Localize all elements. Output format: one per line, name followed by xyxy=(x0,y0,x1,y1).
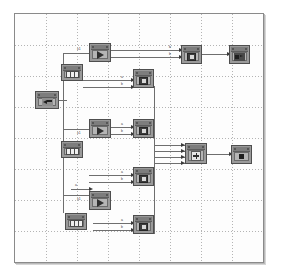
port-label-gain3-in: x1 xyxy=(77,197,81,201)
block-body xyxy=(234,152,249,161)
wire-gain2-b[interactable] xyxy=(111,134,131,135)
output-block-top[interactable] xyxy=(229,45,250,64)
wire-num3-a[interactable] xyxy=(93,223,131,224)
block-body xyxy=(184,52,199,61)
gain-block-2[interactable] xyxy=(89,119,111,138)
wire-num1-b[interactable] xyxy=(83,87,131,88)
port-label-s1-b: b xyxy=(121,82,123,86)
port-label-top-b: b xyxy=(169,52,171,56)
wire-num2-b[interactable] xyxy=(89,182,131,183)
block-handle-dot-icon xyxy=(92,46,94,48)
block-handle-dot-icon xyxy=(149,170,151,172)
grid-line-horizontal xyxy=(15,138,263,139)
wire-sum-to-out[interactable] xyxy=(207,154,231,155)
block-handle-dot-icon xyxy=(64,144,66,146)
gain-triangle-icon xyxy=(97,199,104,207)
scope-block-1[interactable] xyxy=(133,69,154,88)
port-label-s4-a: a xyxy=(121,218,123,222)
output-arrow-icon xyxy=(234,53,245,61)
block-body xyxy=(92,50,108,59)
scope-icon xyxy=(187,53,196,61)
port-label-s4-b: b xyxy=(121,225,123,229)
block-body xyxy=(136,126,151,135)
block-handle-dot-icon xyxy=(245,48,247,50)
screenshot-root: x1 x1 x1 a b b a b a b a b a b In1Num1Nu… xyxy=(0,0,288,277)
numeric-block-3[interactable] xyxy=(65,213,87,230)
block-body xyxy=(232,52,247,61)
block-handle-dot-icon xyxy=(232,48,234,50)
scope-block-4[interactable] xyxy=(133,215,154,234)
scope-block-2[interactable] xyxy=(133,119,154,138)
block-body xyxy=(38,98,56,106)
block-body xyxy=(64,148,80,155)
port-label-gain2-in: x1 xyxy=(77,131,81,135)
numeric-cells-icon xyxy=(70,220,83,227)
block-handle-dot-icon xyxy=(78,144,80,146)
wire-source-stub[interactable] xyxy=(59,100,67,101)
block-handle-dot-icon xyxy=(188,146,190,148)
wire-gain3-feed[interactable] xyxy=(71,189,89,190)
wire-src-to-gain1[interactable] xyxy=(63,53,89,54)
block-body xyxy=(188,150,204,161)
wire-gain2-a[interactable] xyxy=(111,127,131,128)
block-handle-dot-icon xyxy=(234,148,236,150)
scope-icon xyxy=(139,223,148,231)
numeric-block-2[interactable] xyxy=(61,141,83,158)
block-handle-dot-icon xyxy=(136,218,138,220)
sum-block[interactable] xyxy=(185,143,207,164)
block-body xyxy=(136,222,151,231)
gain-triangle-icon xyxy=(97,127,104,135)
block-handle-dot-icon xyxy=(202,146,204,148)
output-block-right[interactable] xyxy=(231,145,252,164)
block-handle-dot-icon xyxy=(92,194,94,196)
arrow-into-gain3-a xyxy=(89,187,93,191)
block-body xyxy=(136,174,151,183)
wire-src-to-gain3[interactable] xyxy=(63,195,89,196)
scope-icon xyxy=(139,175,148,183)
gain-block-1[interactable] xyxy=(89,43,111,62)
grid-line-horizontal xyxy=(15,45,263,46)
port-label-s3-b: b xyxy=(121,177,123,181)
scope-block-top[interactable] xyxy=(181,45,202,64)
port-label-gain3-in2: a xyxy=(75,183,77,187)
wire-num3-b[interactable] xyxy=(93,230,131,231)
block-handle-dot-icon xyxy=(54,94,56,96)
block-body xyxy=(136,76,151,85)
wire-src-to-gain2[interactable] xyxy=(63,129,89,130)
gain-triangle-icon xyxy=(97,51,104,59)
source-block-left[interactable] xyxy=(35,91,59,109)
gain-block-3[interactable] xyxy=(89,191,111,210)
scope-block-3[interactable] xyxy=(133,167,154,186)
port-label-s1-a: a xyxy=(121,75,123,79)
block-handle-dot-icon xyxy=(149,122,151,124)
wire-num1-a[interactable] xyxy=(83,80,131,81)
port-label-gain1-in: x1 xyxy=(77,47,81,51)
scope-icon xyxy=(139,127,148,135)
block-handle-dot-icon xyxy=(106,194,108,196)
block-handle-dot-icon xyxy=(149,72,151,74)
port-label-top-a: b xyxy=(169,45,171,49)
numeric-cells-icon xyxy=(66,148,79,155)
input-arrow-icon xyxy=(42,98,53,106)
block-handle-dot-icon xyxy=(184,48,186,50)
numeric-block-1[interactable] xyxy=(61,64,83,81)
wire-gain1-out-b[interactable] xyxy=(111,57,179,58)
numeric-cells-icon xyxy=(66,71,79,78)
wire-right-trunk[interactable] xyxy=(154,86,155,234)
block-handle-dot-icon xyxy=(197,48,199,50)
terminator-square-icon xyxy=(239,154,244,159)
block-handle-dot-icon xyxy=(68,216,70,218)
block-handle-dot-icon xyxy=(136,170,138,172)
wire-gain1-out-a[interactable] xyxy=(111,50,179,51)
block-handle-dot-icon xyxy=(106,46,108,48)
block-body xyxy=(68,220,84,227)
wire-scopetop-to-out[interactable] xyxy=(202,54,229,55)
wire-num2-a[interactable] xyxy=(89,175,131,176)
block-handle-dot-icon xyxy=(106,122,108,124)
plus-icon xyxy=(191,151,201,161)
grid-line-horizontal xyxy=(15,200,263,201)
block-diagram-canvas[interactable]: x1 x1 x1 a b b a b a b a b a b In1Num1Nu… xyxy=(14,13,264,263)
block-handle-dot-icon xyxy=(149,218,151,220)
block-body xyxy=(92,198,108,207)
block-handle-dot-icon xyxy=(247,148,249,150)
